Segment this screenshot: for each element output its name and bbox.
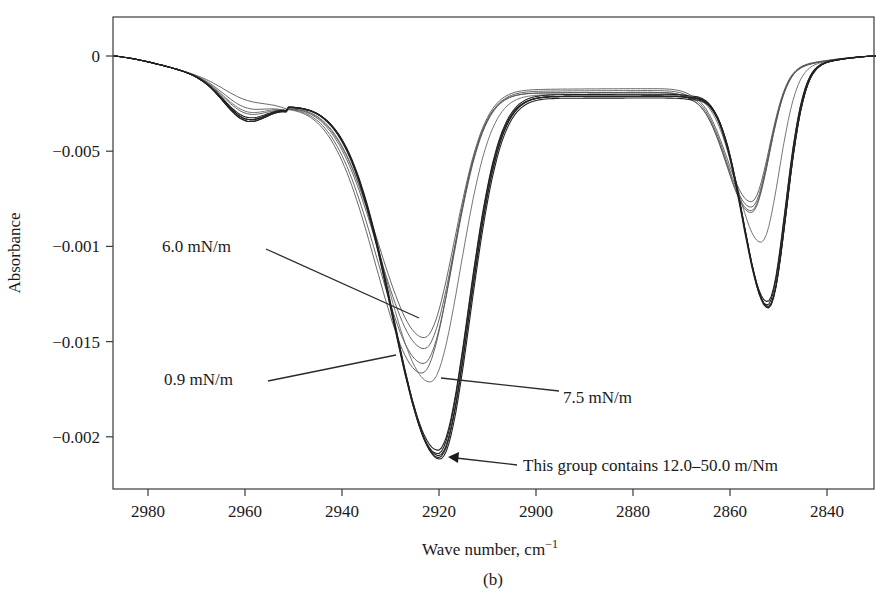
- x-tick-label: 2860: [713, 502, 747, 521]
- leader-line-6-0: [266, 249, 419, 318]
- arrowhead-icon: [448, 452, 459, 463]
- spectrum-curves: [114, 56, 875, 459]
- x-axis-title: Wave number, cm−1: [422, 537, 558, 559]
- y-tick-label: −0.005: [52, 142, 100, 161]
- x-tick-label: 2980: [131, 502, 165, 521]
- leader-line-high-group: [456, 458, 517, 465]
- y-tick-label: −0.002: [52, 428, 100, 447]
- annotation-0-9-label: 0.9 mN/m: [164, 370, 233, 389]
- annotation-0-9: 0.9 mN/m: [164, 355, 396, 389]
- spectrum-line-0-9-mn-m: [114, 56, 875, 373]
- y-tick-label: −0.001: [52, 237, 100, 256]
- x-axis: 29802960294029202900288028602840: [131, 489, 844, 521]
- annotation-high-group-label: This group contains 12.0–50.0 m/Nm: [523, 456, 778, 475]
- annotation-7-5: 7.5 mN/m: [441, 378, 632, 407]
- panel-label: (b): [483, 570, 503, 589]
- leader-line-0-9: [268, 355, 396, 381]
- spectrum-line-50-0-mn-m: [114, 56, 875, 459]
- ftir-spectrum-chart: 0−0.005−0.001−0.015−0.002 29802960294029…: [0, 0, 876, 593]
- annotation-7-5-label: 7.5 mN/m: [563, 388, 632, 407]
- y-axis-title: Absorbance: [5, 212, 24, 293]
- annotation-6-0-label: 6.0 mN/m: [162, 237, 231, 256]
- x-tick-label: 2960: [228, 502, 262, 521]
- y-axis: 0−0.005−0.001−0.015−0.002: [52, 47, 113, 447]
- x-tick-label: 2920: [422, 502, 456, 521]
- spectrum-line-40-0-mn-m: [114, 56, 875, 458]
- y-tick-label: −0.015: [52, 333, 100, 352]
- annotation-high-group: This group contains 12.0–50.0 m/Nm: [448, 452, 778, 475]
- x-tick-label: 2940: [325, 502, 359, 521]
- x-tick-label: 2840: [810, 502, 844, 521]
- x-tick-label: 2900: [519, 502, 553, 521]
- y-tick-label: 0: [92, 47, 101, 66]
- x-tick-label: 2880: [616, 502, 650, 521]
